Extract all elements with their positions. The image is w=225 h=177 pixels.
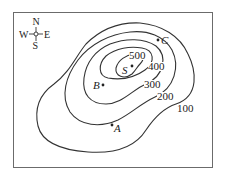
compass-south: S xyxy=(33,40,39,51)
point-b-label: B xyxy=(93,79,100,91)
contour-label-500: 500 xyxy=(129,49,146,61)
point-a: A xyxy=(111,122,121,134)
compass-west: W xyxy=(19,29,29,40)
contour-label-100: 100 xyxy=(177,102,194,114)
topographic-map: N S E W 500 400 300 200 100 S B A C xyxy=(0,0,225,177)
compass-north: N xyxy=(33,16,40,27)
contour-label-200: 200 xyxy=(157,90,174,102)
compass-rose-icon: N S E W xyxy=(19,16,50,51)
point-summit-label: S xyxy=(122,64,128,76)
point-c-label: C xyxy=(161,34,169,46)
point-c: C xyxy=(157,34,169,46)
point-a-label: A xyxy=(113,122,121,134)
point-b: B xyxy=(93,79,104,91)
compass-east: E xyxy=(44,29,50,40)
contour-label-400: 400 xyxy=(148,60,165,72)
contour-label-300: 300 xyxy=(144,78,161,90)
